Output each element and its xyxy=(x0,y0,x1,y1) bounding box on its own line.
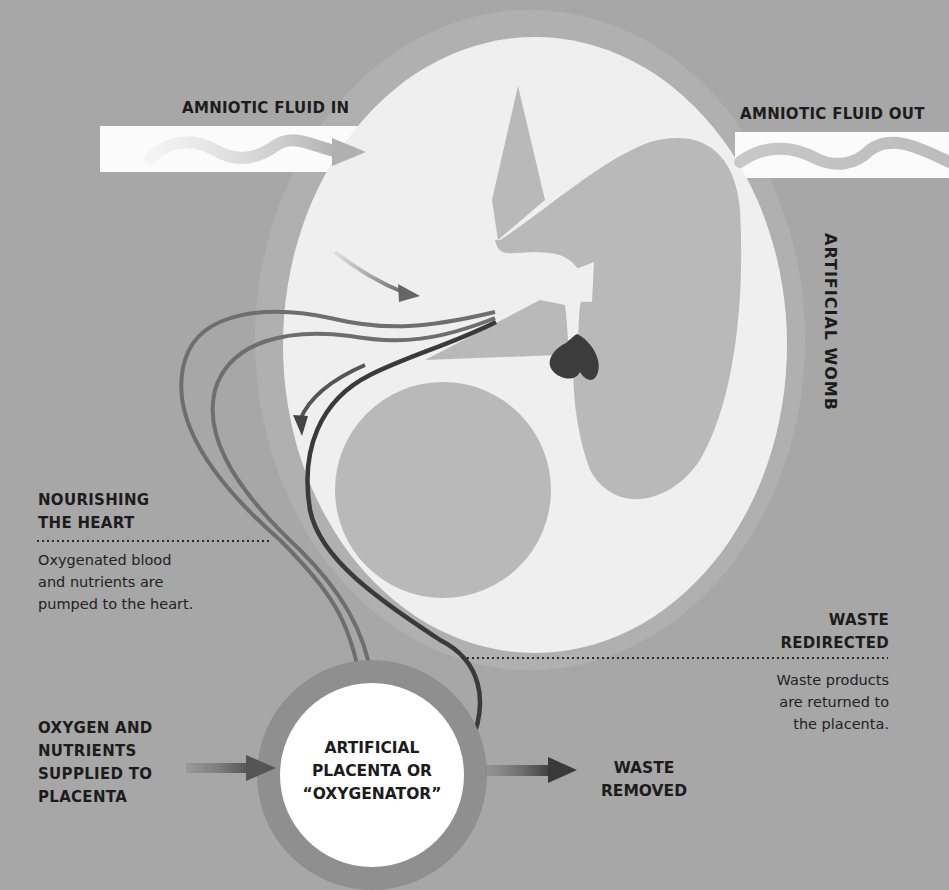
waste-redirected-body: Waste products are returned to the place… xyxy=(777,669,889,735)
nourishing-title: NOURISHING THE HEART xyxy=(38,489,149,535)
placenta-label: ARTIFICIAL PLACENTA OR “OXYGENATOR” xyxy=(292,737,452,806)
supply-label: OXYGEN AND NUTRIENTS SUPPLIED TO PLACENT… xyxy=(38,717,153,809)
fluid-in-label: AMNIOTIC FLUID IN xyxy=(182,97,349,120)
fluid-out-label: AMNIOTIC FLUID OUT xyxy=(740,103,925,126)
waste-removed-label: WASTE REMOVED xyxy=(594,757,694,803)
artificial-womb-label: ARTIFICIAL WOMB xyxy=(821,233,840,411)
waste-arrow-icon xyxy=(548,757,577,783)
fetus-head xyxy=(335,382,551,598)
nourishing-body: Oxygenated blood and nutrients are pumpe… xyxy=(38,549,193,615)
waste-redirected-title: WASTE REDIRECTED xyxy=(780,609,889,655)
